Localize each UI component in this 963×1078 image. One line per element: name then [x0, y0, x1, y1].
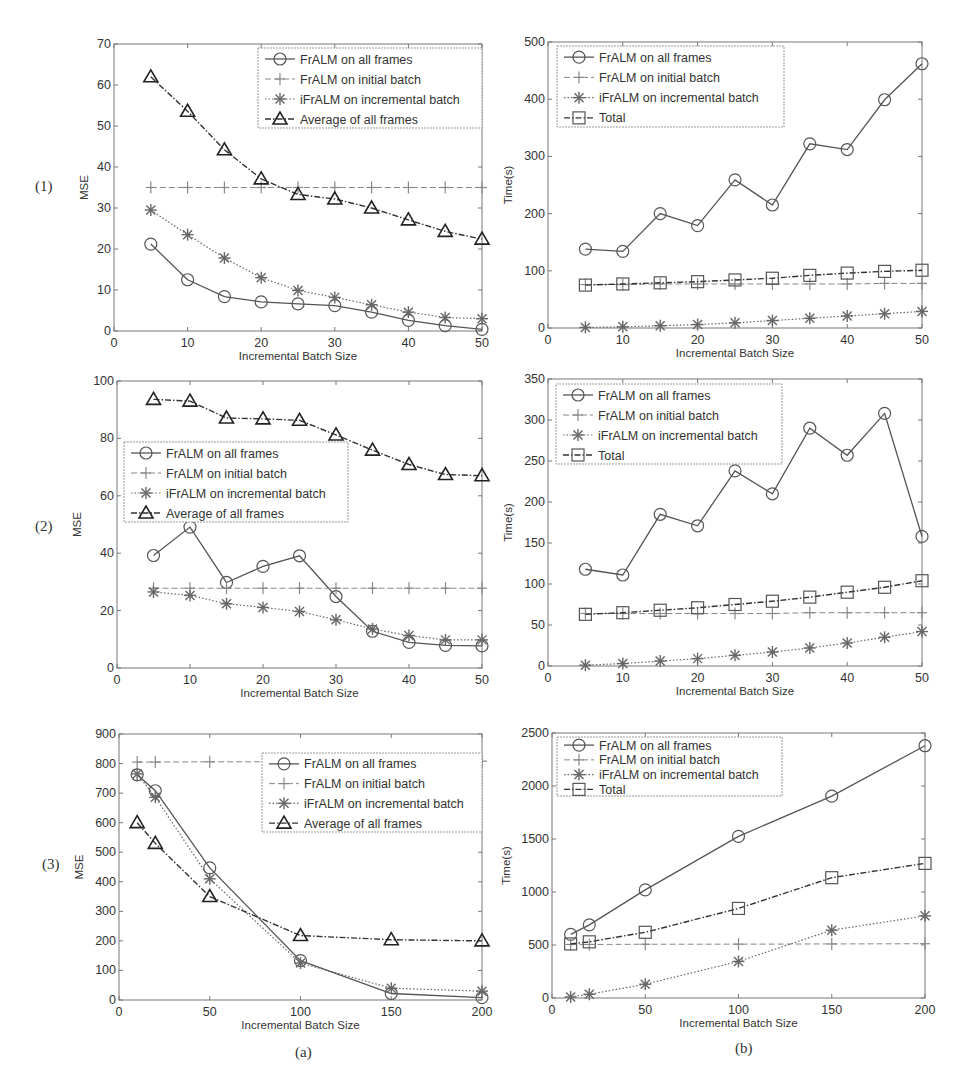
svg-text:1000: 1000 [521, 885, 549, 899]
svg-text:2000: 2000 [521, 779, 549, 793]
svg-text:Incremental Batch Size: Incremental Batch Size [679, 1017, 797, 1029]
chart-row3-time: 05010015020005001000150020002500Incremen… [0, 0, 963, 1078]
svg-text:FrALM on initial batch: FrALM on initial batch [599, 753, 720, 767]
column-label-b: (b) [735, 1040, 753, 1057]
svg-text:0: 0 [549, 1003, 556, 1017]
svg-text:500: 500 [528, 938, 549, 952]
svg-text:0: 0 [542, 991, 549, 1005]
column-label-a: (a) [295, 1044, 312, 1061]
svg-text:200: 200 [915, 1003, 936, 1017]
svg-text:150: 150 [821, 1003, 842, 1017]
svg-text:iFrALM on incremental batch: iFrALM on incremental batch [599, 768, 759, 782]
svg-text:50: 50 [638, 1003, 652, 1017]
svg-text:2500: 2500 [521, 726, 549, 740]
figure-caption-clipped [40, 1068, 940, 1078]
svg-text:Total: Total [599, 783, 625, 797]
svg-text:Time(s): Time(s) [500, 846, 512, 885]
svg-text:1500: 1500 [521, 832, 549, 846]
svg-text:FrALM on all frames: FrALM on all frames [599, 739, 712, 753]
svg-text:100: 100 [728, 1003, 749, 1017]
